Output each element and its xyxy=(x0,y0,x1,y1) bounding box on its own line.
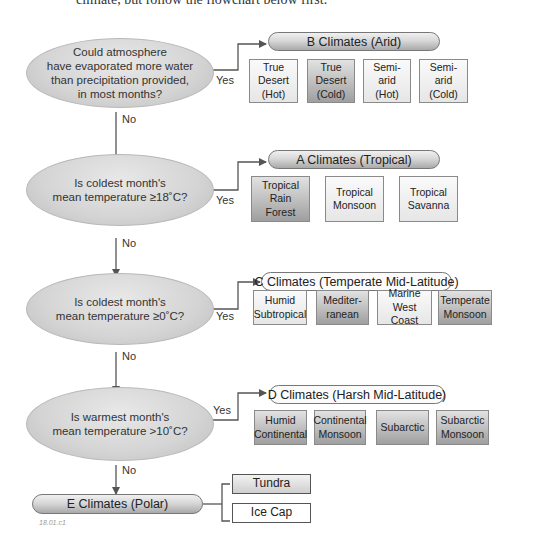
climate-box: TrueDesert(Hot) xyxy=(249,59,298,103)
climate-box: HumidContinental xyxy=(254,410,307,445)
group-title-e: E Climates (Polar) xyxy=(32,494,203,514)
climate-box: ContinentalMonsoon xyxy=(314,410,366,445)
climate-box-ice-cap: Ice Cap xyxy=(232,503,311,523)
question-arid: Could atmosphere have evaporated more wa… xyxy=(26,38,214,108)
climate-box: Mediter-ranean xyxy=(316,290,369,325)
group-title-b: B Climates (Arid) xyxy=(268,32,440,51)
no-label-q2: No xyxy=(122,237,136,249)
no-label-q4: No xyxy=(122,464,136,476)
question-temperate: Is coldest month's mean temperature ≥0˚C… xyxy=(26,273,214,345)
climate-box: TemperateMonsoon xyxy=(438,290,492,325)
no-label-q3: No xyxy=(122,350,136,362)
group-title-d: D Climates (Harsh Mid-Latitude) xyxy=(269,385,445,404)
question-tropical: Is coldest month's mean temperature ≥18˚… xyxy=(26,154,214,226)
yes-label-q4: Yes xyxy=(213,404,231,416)
climate-box: TropicalRainForest xyxy=(251,176,310,222)
climate-box: Semi-arid(Hot) xyxy=(363,59,411,103)
climate-box: TropicalMonsoon xyxy=(325,176,384,222)
no-label-q1: No xyxy=(122,113,136,125)
climate-box: TrueDesert(Cold) xyxy=(307,59,355,103)
climate-box: TropicalSavanna xyxy=(399,176,458,222)
climate-box: MarineWest Coast xyxy=(377,290,432,325)
yes-label-q1: Yes xyxy=(216,74,234,86)
climate-box: Subarctic xyxy=(376,410,429,445)
climate-box: HumidSubtropical xyxy=(253,290,307,325)
yes-label-q2: Yes xyxy=(216,194,234,206)
figure-id: 18.01.c1 xyxy=(39,519,66,526)
climate-box-tundra: Tundra xyxy=(232,474,311,494)
yes-label-q3: Yes xyxy=(216,310,234,322)
climate-box: Semi-arid(Cold) xyxy=(419,59,468,103)
group-title-a: A Climates (Tropical) xyxy=(268,150,440,169)
climate-box: SubarcticMonsoon xyxy=(436,410,489,445)
question-harsh: Is warmest month's mean temperature >10˚… xyxy=(26,387,214,461)
